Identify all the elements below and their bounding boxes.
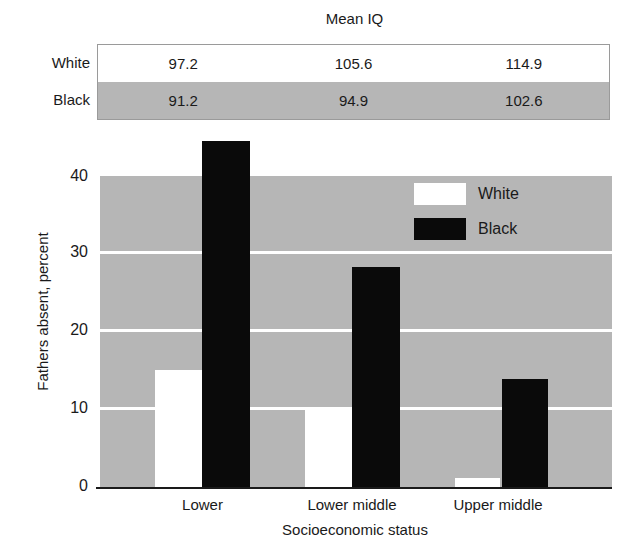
legend-label-white: White <box>478 185 519 203</box>
bar-black-upper-middle <box>502 379 548 487</box>
x-axis-title: Socioeconomic status <box>200 521 510 538</box>
chart-legend: White Black <box>414 183 519 253</box>
legend-item-black: Black <box>414 218 519 240</box>
xtick-label-upper-middle: Upper middle <box>418 496 578 513</box>
bar-black-lower-middle <box>352 267 400 487</box>
bar-chart: 40 30 20 10 0 Fathers absent, percent Lo… <box>0 0 638 558</box>
xtick-label-lower-middle: Lower middle <box>272 496 432 513</box>
bar-white-lower-middle <box>305 408 352 487</box>
legend-label-black: Black <box>478 220 517 238</box>
legend-swatch-black-icon <box>414 218 466 240</box>
bar-white-upper-middle <box>455 478 500 487</box>
x-axis-line <box>96 487 612 489</box>
bars-layer <box>100 130 612 487</box>
y-axis-title: Fathers absent, percent <box>34 182 51 442</box>
bar-black-lower <box>202 141 250 487</box>
legend-item-white: White <box>414 183 519 205</box>
ytick-label-0: 0 <box>28 477 88 495</box>
bar-white-lower <box>155 370 202 487</box>
xtick-label-lower: Lower <box>125 496 280 513</box>
legend-swatch-white-icon <box>414 183 466 205</box>
